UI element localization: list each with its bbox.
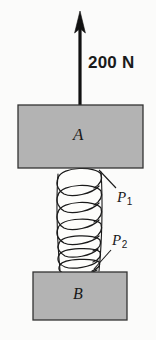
spring-p2-base: P: [112, 232, 121, 248]
physics-figure: 200 N A B P1 P2: [0, 0, 156, 340]
spring-segment-p1-label: P1: [117, 190, 132, 207]
block-b-label: B: [73, 286, 83, 302]
force-magnitude-label: 200 N: [88, 54, 134, 71]
spring-p1-base: P: [117, 189, 126, 205]
spring-p1-subscript: 1: [126, 196, 132, 207]
spring-segment-p2-label: P2: [112, 233, 127, 250]
block-a-label: A: [73, 126, 83, 143]
force-arrow: [75, 11, 86, 105]
spring-p2-subscript: 2: [121, 239, 127, 250]
coil-spring: [57, 168, 102, 275]
